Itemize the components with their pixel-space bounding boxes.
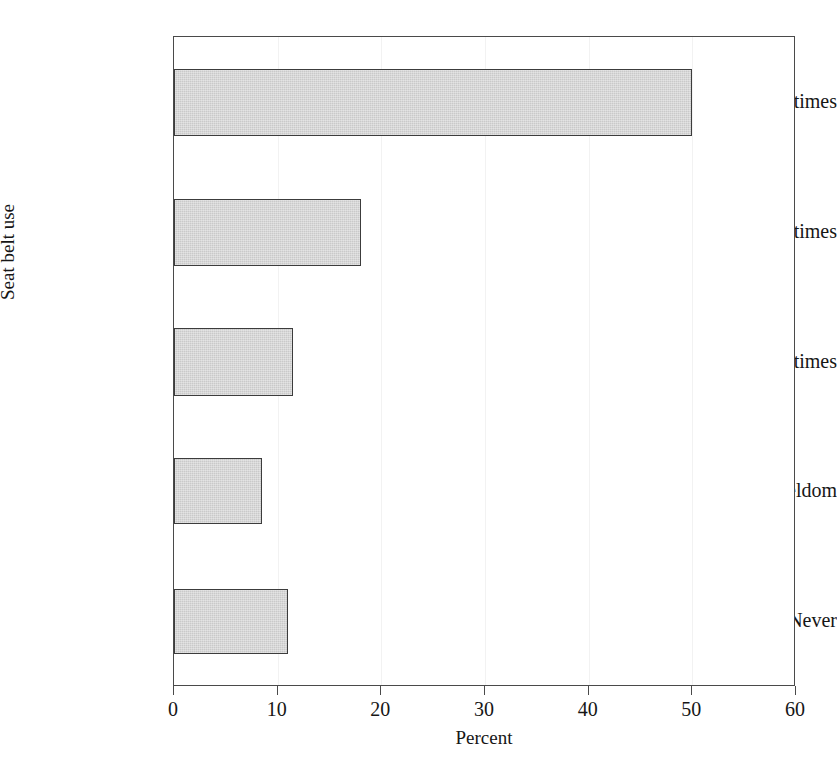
bar-never: [174, 589, 288, 654]
x-tick-60: [795, 686, 796, 695]
y-axis-title: Seat belt use: [0, 204, 19, 300]
x-tick-20: [380, 686, 381, 695]
x-tick-label-40: 40: [553, 698, 623, 721]
x-tick-10: [277, 686, 278, 695]
x-tick-label-0: 0: [138, 698, 208, 721]
x-tick-label-10: 10: [242, 698, 312, 721]
x-tick-label-60: 60: [760, 698, 830, 721]
bar-seldom: [174, 458, 262, 524]
gridline-50: [692, 37, 693, 685]
x-tick-0: [173, 686, 174, 695]
x-tick-50: [691, 686, 692, 695]
x-axis-title: Percent: [173, 727, 795, 749]
bar-most-times: [174, 199, 361, 266]
x-tick-40: [588, 686, 589, 695]
x-tick-30: [484, 686, 485, 695]
plot-area: [173, 36, 795, 686]
x-tick-label-50: 50: [656, 698, 726, 721]
bar-chart: Seat belt use All times Most times Somet…: [0, 0, 837, 776]
bar-sometimes: [174, 328, 293, 396]
x-tick-label-20: 20: [345, 698, 415, 721]
x-tick-label-30: 30: [449, 698, 519, 721]
bar-all-times: [174, 69, 692, 136]
